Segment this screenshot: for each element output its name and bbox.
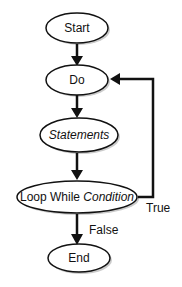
edge-loop-end-false: [71, 214, 83, 245]
node-loop-while: Loop While Condition: [17, 181, 137, 213]
node-do-label: Do: [69, 73, 85, 87]
edge-do-statements: [71, 95, 83, 118]
edge-statements-loop: [71, 153, 83, 180]
node-end-label: End: [68, 251, 89, 265]
edge-start-do: [71, 44, 83, 66]
node-loop-label: Loop While Condition: [20, 190, 134, 204]
node-end: End: [48, 244, 110, 272]
flowchart: Start Do Statements Loop While Condition…: [0, 0, 182, 287]
node-statements: Statements: [40, 118, 118, 152]
node-do: Do: [46, 65, 108, 95]
node-start-label: Start: [64, 21, 90, 35]
edge-label-false: False: [89, 223, 119, 237]
node-start: Start: [46, 13, 108, 43]
edge-label-true: True: [146, 201, 171, 215]
node-statements-label: Statements: [49, 128, 110, 142]
